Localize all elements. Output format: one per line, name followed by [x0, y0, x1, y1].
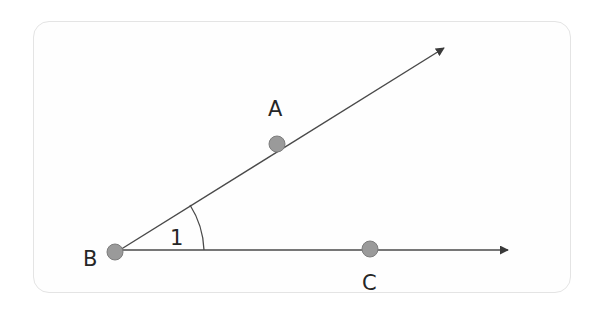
label-b: B: [83, 247, 97, 271]
point-c: [362, 241, 378, 257]
label-a: A: [268, 97, 283, 121]
point-b: [107, 244, 123, 260]
angle-arc: [190, 205, 204, 250]
point-a: [269, 136, 285, 152]
angle-label: 1: [170, 226, 183, 250]
label-c: C: [362, 271, 377, 295]
angle-diagram: A B C 1: [0, 0, 602, 329]
